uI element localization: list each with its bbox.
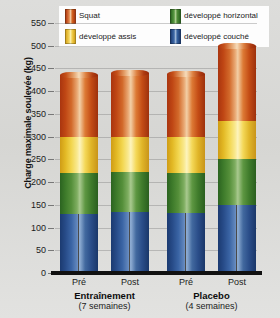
chart-figure: Squat développé horizontal développé ass… bbox=[0, 0, 280, 318]
stacked-bar[interactable] bbox=[167, 74, 205, 273]
y-axis-tick-label: 350 bbox=[31, 109, 55, 119]
stacked-bar[interactable] bbox=[60, 75, 98, 273]
legend-label-developpe-horizontal: développé horizontal bbox=[184, 12, 258, 20]
bar-segment-horiz bbox=[218, 159, 256, 204]
legend-label-squat: Squat bbox=[79, 12, 100, 20]
y-axis-tick-label: 450 bbox=[31, 63, 55, 73]
x-axis-tick-label: Pré bbox=[161, 277, 211, 287]
y-axis-tick-label: 200 bbox=[31, 177, 55, 187]
error-bar bbox=[185, 213, 186, 271]
bar-segment-squat bbox=[218, 46, 256, 121]
bar-segment-couche bbox=[111, 212, 149, 273]
group-name: Entraînement bbox=[50, 290, 160, 301]
stacked-bar[interactable] bbox=[111, 73, 149, 273]
legend-item-developpe-horizontal: développé horizontal bbox=[164, 9, 269, 24]
x-axis-group-2: Placebo(4 semaines) bbox=[157, 290, 267, 312]
x-axis-line bbox=[51, 271, 262, 275]
bar-segment-squat bbox=[60, 75, 98, 136]
y-axis-tick-label: 500 bbox=[31, 41, 55, 51]
x-axis-group-1: Entraînement(7 semaines) bbox=[50, 290, 160, 312]
bar-segment-couche bbox=[60, 214, 98, 273]
error-bar bbox=[78, 214, 79, 271]
y-axis-tick-label: 400 bbox=[31, 86, 55, 96]
bar-segment-assis bbox=[60, 137, 98, 173]
group-duration: (4 semaines) bbox=[157, 301, 267, 312]
stacked-bar[interactable] bbox=[218, 46, 256, 273]
legend-item-squat: Squat bbox=[59, 9, 164, 24]
gridline bbox=[55, 23, 257, 24]
legend-swatch-squat-icon bbox=[65, 9, 76, 24]
x-axis-tick-label: Post bbox=[105, 277, 155, 287]
x-axis-tick-label: Post bbox=[212, 277, 262, 287]
bar-segment-horiz bbox=[167, 173, 205, 213]
y-axis-tick-label: 50 bbox=[36, 245, 55, 255]
group-duration: (7 semaines) bbox=[50, 301, 160, 312]
error-bar bbox=[129, 212, 130, 271]
bar-segment-assis bbox=[167, 137, 205, 173]
y-axis-tick-label: 250 bbox=[31, 154, 55, 164]
plot-area: 050100150200250300350400450500550 bbox=[55, 23, 257, 273]
bar-segment-couche bbox=[218, 205, 256, 273]
bar-segment-assis bbox=[111, 137, 149, 172]
legend-swatch-developpe-horizontal-icon bbox=[170, 9, 181, 24]
bar-segment-squat bbox=[111, 73, 149, 137]
y-axis-tick-label: 100 bbox=[31, 223, 55, 233]
y-axis-tick-label: 300 bbox=[31, 132, 55, 142]
error-bar bbox=[236, 205, 237, 271]
group-name: Placebo bbox=[157, 290, 267, 301]
y-axis-tick-label: 550 bbox=[31, 18, 55, 28]
bar-segment-horiz bbox=[60, 173, 98, 214]
y-axis-tick-label: 150 bbox=[31, 200, 55, 210]
bar-segment-assis bbox=[218, 121, 256, 160]
bar-segment-squat bbox=[167, 74, 205, 136]
bar-segment-horiz bbox=[111, 172, 149, 212]
bar-segment-couche bbox=[167, 213, 205, 273]
x-axis-tick-label: Pré bbox=[54, 277, 104, 287]
